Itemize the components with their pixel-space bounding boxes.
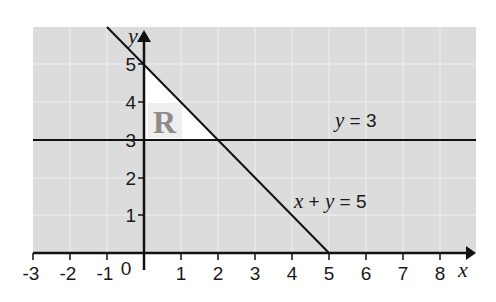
svg-text:-2: -2 [60, 263, 77, 284]
svg-text:5: 5 [324, 263, 335, 284]
x-tick-labels: -3 -2 -1 1 2 3 4 5 6 7 8 [23, 263, 446, 284]
region-label: R [153, 104, 177, 140]
svg-text:2: 2 [125, 168, 136, 189]
label-x-plus-y-equals-5: x + y = 5 [293, 189, 367, 213]
y-axis-label: y [126, 23, 138, 48]
svg-text:3: 3 [250, 263, 261, 284]
svg-text:7: 7 [398, 263, 409, 284]
origin-label: 0 [121, 258, 132, 279]
svg-text:1: 1 [176, 263, 187, 284]
x-axis-label: x [457, 257, 468, 282]
graph: R -3 -2 -1 1 2 3 4 5 6 [0, 0, 496, 302]
svg-text:2: 2 [213, 263, 224, 284]
svg-text:4: 4 [287, 263, 298, 284]
svg-text:4: 4 [125, 92, 136, 113]
svg-text:8: 8 [435, 263, 446, 284]
svg-text:6: 6 [361, 263, 372, 284]
svg-text:5: 5 [125, 54, 136, 75]
svg-text:-1: -1 [97, 263, 114, 284]
label-y-equals-3: y = 3 [333, 108, 377, 132]
svg-text:1: 1 [125, 205, 136, 226]
svg-text:-3: -3 [23, 263, 40, 284]
svg-text:3: 3 [125, 130, 136, 151]
